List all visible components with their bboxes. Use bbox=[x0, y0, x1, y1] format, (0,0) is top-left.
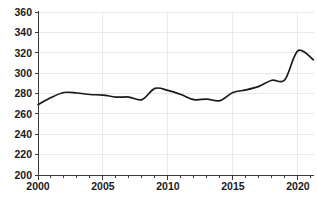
y-tick-label: 240 bbox=[14, 128, 32, 140]
x-tick-label: 2005 bbox=[91, 180, 115, 192]
y-tick-label: 260 bbox=[14, 108, 32, 120]
x-tick-label: 2010 bbox=[156, 180, 180, 192]
y-tick-label: 280 bbox=[14, 87, 32, 99]
data-series-group bbox=[38, 50, 314, 105]
x-axis-labels: 20002005201020152020 bbox=[26, 180, 309, 192]
y-tick-label: 320 bbox=[14, 47, 32, 59]
y-tick-label: 300 bbox=[14, 67, 32, 79]
y-tick-label: 200 bbox=[14, 169, 32, 181]
x-axis-ticks bbox=[38, 175, 311, 180]
y-axis-labels: 200220240260280300320340360 bbox=[14, 6, 32, 181]
y-tick-label: 340 bbox=[14, 26, 32, 38]
x-tick-label: 2020 bbox=[286, 180, 310, 192]
line-chart: 200220240260280300320340360 200020052010… bbox=[0, 0, 317, 200]
y-tick-label: 360 bbox=[14, 6, 32, 18]
chart-canvas: 200220240260280300320340360 200020052010… bbox=[0, 0, 317, 200]
y-axis-ticks bbox=[35, 12, 39, 175]
x-tick-label: 2015 bbox=[221, 180, 245, 192]
x-tick-label: 2000 bbox=[26, 180, 50, 192]
data-line-series-1 bbox=[38, 50, 314, 105]
y-tick-label: 220 bbox=[14, 148, 32, 160]
